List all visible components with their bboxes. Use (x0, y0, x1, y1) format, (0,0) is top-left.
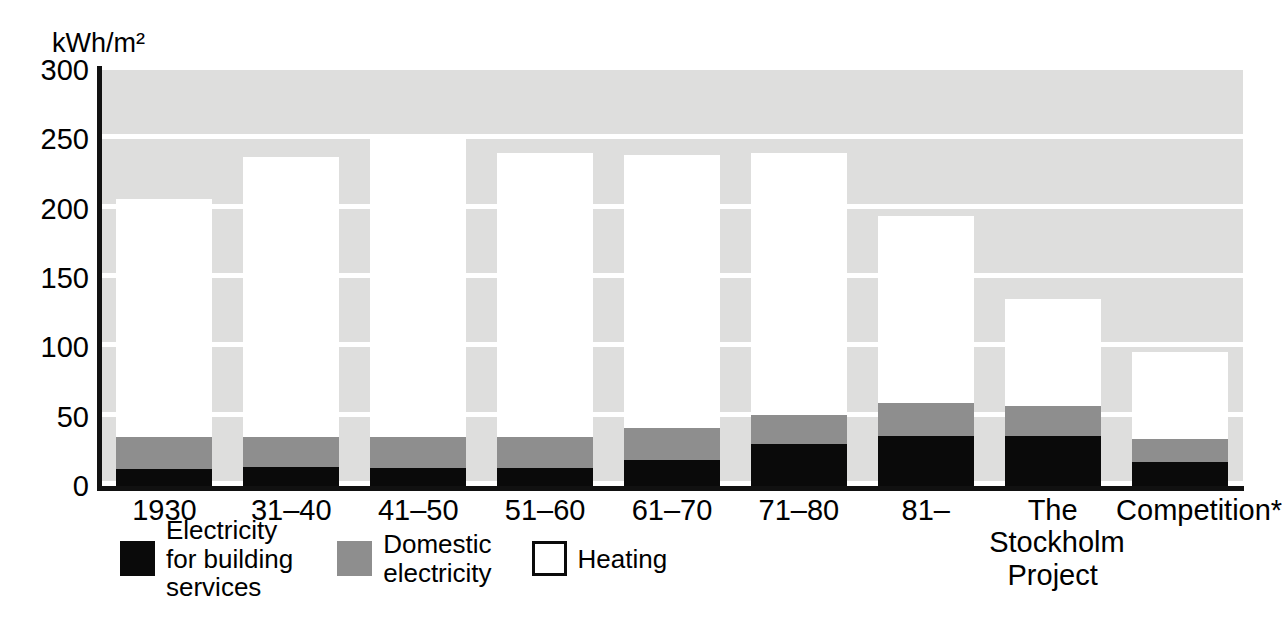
legend-label: Electricity for building services (166, 516, 293, 602)
bar-segment (624, 428, 720, 460)
y-tick-label: 300 (5, 56, 97, 85)
bar-segment (1132, 439, 1228, 463)
bar-stack (497, 153, 593, 486)
bar-segment (1005, 299, 1101, 406)
chart-page: kWh/m² 050100150200250300 193031–4041–50… (0, 0, 1282, 618)
bar-stack (878, 216, 974, 486)
bar-stack (624, 155, 720, 486)
bar-segment (370, 468, 466, 486)
plot-area (101, 70, 1243, 486)
legend-item: Heating (532, 541, 668, 576)
y-tick-label: 250 (5, 125, 97, 154)
y-tick-label: 0 (5, 472, 97, 501)
bar-segment (751, 415, 847, 444)
grid-band (101, 70, 1243, 134)
legend-item: Electricity for building services (120, 516, 293, 602)
bar-segment (878, 216, 974, 403)
white-swatch (532, 541, 567, 576)
legend-label: Heating (578, 545, 668, 574)
bar-segment (1132, 462, 1228, 486)
bar-stack (116, 199, 212, 486)
bar-segment (624, 155, 720, 428)
bar-segment (878, 436, 974, 486)
bar-segment (497, 437, 593, 468)
y-axis-line (97, 66, 102, 490)
bar-segment (751, 444, 847, 486)
legend-label: Domestic electricity (383, 530, 491, 587)
x-tick-label: The Stockholm Project (989, 494, 1116, 591)
y-tick-label: 150 (5, 264, 97, 293)
bar-segment (116, 469, 212, 486)
bar-segment (1132, 352, 1228, 439)
bar-segment (243, 157, 339, 437)
bar-segment (497, 153, 593, 437)
x-tick-label: 71–80 (735, 494, 862, 526)
bar-segment (751, 153, 847, 415)
y-tick-label: 100 (5, 333, 97, 362)
y-tick-label: 50 (5, 402, 97, 431)
bar-segment (497, 468, 593, 486)
bar-segment (370, 134, 466, 438)
bar-stack (370, 134, 466, 486)
bar-segment (624, 460, 720, 486)
bar-segment (370, 437, 466, 468)
chart-legend: Electricity for building servicesDomesti… (120, 516, 667, 602)
x-tick-label: 81– (862, 494, 989, 526)
y-axis-ticks: 050100150200250300 (0, 0, 97, 618)
bar-stack (1132, 352, 1228, 486)
y-tick-label: 200 (5, 194, 97, 223)
black-swatch (120, 541, 155, 576)
legend-item: Domestic electricity (337, 530, 491, 587)
bar-stack (1005, 299, 1101, 486)
gray-swatch (337, 541, 372, 576)
bar-stack (243, 157, 339, 486)
bar-segment (878, 403, 974, 436)
bar-segment (1005, 406, 1101, 437)
bar-segment (1005, 436, 1101, 486)
bar-segment (116, 199, 212, 438)
bar-segment (116, 437, 212, 469)
x-tick-label: Competition* (1116, 494, 1243, 526)
bar-segment (243, 467, 339, 486)
x-axis-line (97, 486, 1244, 491)
bar-stack (751, 153, 847, 486)
bar-segment (243, 437, 339, 466)
